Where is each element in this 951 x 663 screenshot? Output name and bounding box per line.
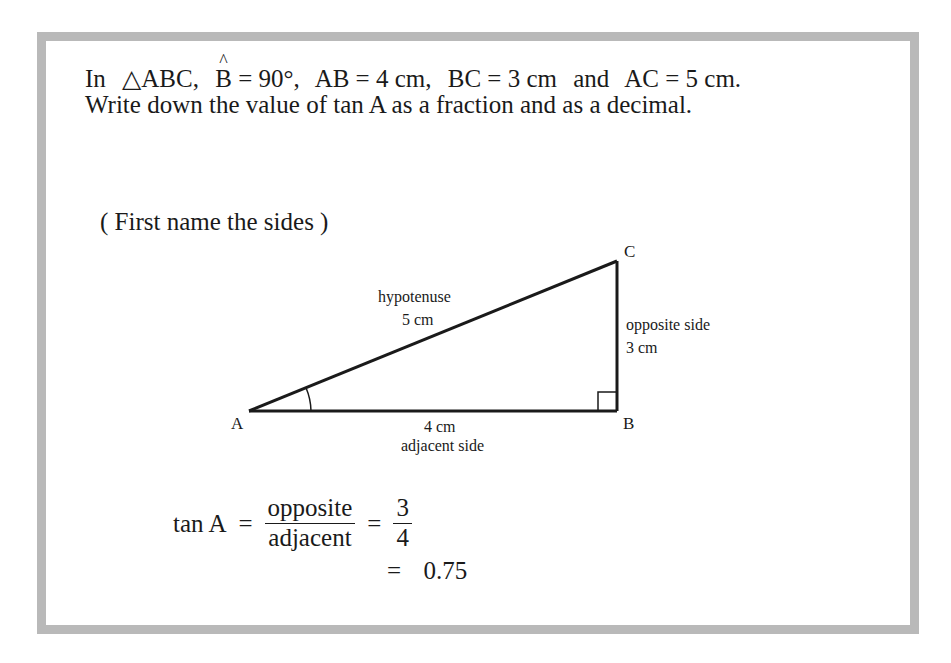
equals-sign: = <box>387 557 401 584</box>
vertex-a-label: A <box>231 414 243 434</box>
value-denominator: 4 <box>393 524 412 553</box>
hypotenuse-length: 5 cm <box>402 311 434 329</box>
vertex-c-label: C <box>624 242 635 262</box>
value-fraction: 3 4 <box>393 494 412 553</box>
right-triangle-diagram <box>0 0 951 663</box>
hypotenuse-line <box>249 261 617 411</box>
opposite-name: opposite side <box>626 316 710 334</box>
value-numerator: 3 <box>393 494 412 523</box>
ratio-denominator: adjacent <box>265 524 354 553</box>
right-angle-icon <box>598 392 617 411</box>
equals-sign: = <box>238 510 252 538</box>
adjacent-length: 4 cm <box>424 418 456 436</box>
solution-line-1: tan A = opposite adjacent = 3 4 <box>173 494 412 553</box>
ratio-fraction: opposite adjacent <box>265 494 356 553</box>
decimal-value: 0.75 <box>424 557 468 584</box>
adjacent-name: adjacent side <box>401 437 484 455</box>
equals-sign: = <box>367 510 381 538</box>
solution-lhs: tan A <box>173 510 226 538</box>
ratio-numerator: opposite <box>265 494 356 523</box>
solution-line-2: = 0.75 <box>387 557 467 585</box>
angle-arc-icon <box>306 388 311 411</box>
triangle-sides <box>249 261 617 411</box>
opposite-length: 3 cm <box>626 339 658 357</box>
hypotenuse-name: hypotenuse <box>378 288 451 306</box>
vertex-b-label: B <box>623 414 634 434</box>
